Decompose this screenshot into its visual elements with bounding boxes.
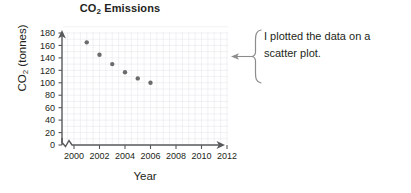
annotation-callout: I plotted the data on a scatter plot.	[248, 28, 411, 84]
annotation-text: I plotted the data on a scatter plot.	[264, 28, 410, 62]
svg-text:2002: 2002	[89, 151, 109, 161]
svg-text:180: 180	[40, 28, 55, 38]
svg-text:160: 160	[40, 41, 55, 51]
data-point	[97, 53, 101, 57]
x-axis-line-with-break	[62, 138, 219, 147]
svg-text:2010: 2010	[191, 151, 211, 161]
x-axis-title: Year	[60, 170, 230, 182]
svg-text:0: 0	[50, 140, 55, 150]
y-tick-labels: 020406080100120140160180	[40, 28, 55, 150]
svg-text:2012: 2012	[217, 151, 237, 161]
x-tick-labels: 2000200220042006200820102012	[64, 151, 237, 161]
svg-text:80: 80	[45, 90, 55, 100]
plot-area: 020406080100120140160180 200020022004200…	[0, 0, 240, 193]
svg-text:2006: 2006	[140, 151, 160, 161]
svg-text:20: 20	[45, 128, 55, 138]
svg-text:140: 140	[40, 53, 55, 63]
annotation-line-2: scatter plot.	[264, 47, 321, 59]
data-point	[85, 40, 89, 44]
screenshot-root: CO2 Emissions CO2 (tonnes) 0204060801001…	[0, 0, 411, 193]
data-point	[136, 76, 140, 80]
svg-text:120: 120	[40, 66, 55, 76]
svg-text:2004: 2004	[115, 151, 135, 161]
svg-text:2008: 2008	[166, 151, 186, 161]
svg-text:100: 100	[40, 78, 55, 88]
co2-emissions-chart: CO2 Emissions CO2 (tonnes) 0204060801001…	[0, 0, 240, 193]
svg-text:2000: 2000	[64, 151, 84, 161]
gridlines	[63, 27, 228, 144]
annotation-line-1: I plotted the data on a	[264, 30, 370, 42]
curly-brace-icon	[252, 30, 261, 83]
data-point	[123, 70, 127, 74]
data-point	[110, 62, 114, 66]
svg-text:40: 40	[45, 115, 55, 125]
data-point	[148, 81, 152, 85]
svg-text:60: 60	[45, 103, 55, 113]
